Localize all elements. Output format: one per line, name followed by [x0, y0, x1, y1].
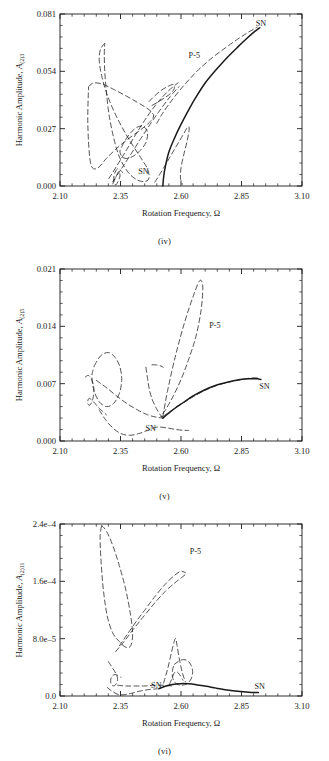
axis-label-group: 2.10 2.35 2.60 2.85 3.10 0.000 0.007 0.0…	[14, 264, 310, 473]
curve-annotation-sn: SN	[256, 19, 267, 28]
curve-annotation-sn: SN	[146, 424, 157, 433]
x-axis-title: Rotation Frequency, Ω	[142, 718, 220, 728]
x-tick-label: 2.85	[234, 191, 249, 201]
x-tick-label: 2.85	[234, 701, 249, 711]
x-tick-label: 3.10	[294, 191, 309, 201]
curve-dashed-lower-tangle	[113, 169, 123, 185]
curve-annotation-p-5: P-5	[190, 547, 201, 556]
panel-caption-v: (v)	[0, 491, 329, 501]
curve-primary-P1-backbone	[159, 684, 259, 693]
x-tick-label: 2.60	[173, 446, 188, 456]
y-tick-label: 1.6e–4	[33, 576, 57, 586]
y-axis-title: Harmonic Amplitude, A(2)5	[14, 309, 26, 401]
curve-dashed-flat-shelf-left	[118, 685, 172, 686]
chart-panel-vi: 2.10 2.35 2.60 2.85 3.10 0.0 8.0e–5 1.6e…	[0, 510, 329, 761]
chart-svg-iv: 2.10 2.35 2.60 2.85 3.10 0.000 0.027 0.0…	[0, 0, 329, 232]
curve-dashed-loop-right-hook	[155, 127, 189, 185]
curve-group	[88, 27, 260, 186]
curve-dashed-mid-blob	[172, 660, 192, 686]
axes-frame	[60, 269, 302, 441]
curve-dashed-left-lower-tail	[108, 662, 121, 686]
x-tick-label: 2.10	[52, 701, 67, 711]
y-tick-label: 0.054	[37, 66, 57, 76]
curve-annotation-sn: SN	[259, 382, 270, 391]
axis-label-group: 2.10 2.35 2.60 2.85 3.10 0.0 8.0e–5 1.6e…	[14, 519, 310, 728]
plot-area-v: 2.10 2.35 2.60 2.85 3.10 0.000 0.007 0.0…	[0, 255, 329, 485]
curve-dashed-mid-stem	[169, 672, 183, 685]
curve-annotation-sn: SN	[254, 682, 265, 691]
curve-group	[100, 525, 258, 694]
panel-caption-iv: (iv)	[0, 236, 329, 246]
x-tick-label: 2.60	[173, 701, 188, 711]
y-tick-label: 0.081	[37, 9, 56, 19]
curve-dashed-mid-column	[146, 367, 162, 418]
x-tick-label: 2.10	[52, 191, 67, 201]
curve-group	[85, 280, 260, 435]
curve-dashed-crossing-diagonal	[109, 83, 178, 179]
panel-caption-vi: (vi)	[0, 746, 329, 756]
curve-annotation-sn: SN	[138, 167, 149, 176]
x-tick-label: 3.10	[294, 701, 309, 711]
x-tick-label: 2.85	[234, 446, 249, 456]
x-tick-label: 2.35	[113, 191, 128, 201]
curve-annotation-p-5: P-5	[189, 51, 200, 60]
y-tick-label: 2.4e–4	[33, 519, 57, 529]
y-tick-label: 0.000	[37, 436, 56, 446]
curve-dashed-flat-shelf	[152, 365, 163, 368]
curve-dashed-loop-broad-left	[88, 83, 154, 169]
y-tick-label: 0.027	[37, 124, 57, 134]
x-tick-label: 2.60	[173, 191, 188, 201]
axis-ticks	[60, 524, 302, 696]
plot-area-vi: 2.10 2.35 2.60 2.85 3.10 0.0 8.0e–5 1.6e…	[0, 510, 329, 740]
annotation-group: P-5SNSN	[151, 547, 265, 691]
x-tick-label: 3.10	[294, 446, 309, 456]
chart-panel-iv: 2.10 2.35 2.60 2.85 3.10 0.000 0.027 0.0…	[0, 0, 329, 253]
x-axis-title: Rotation Frequency, Ω	[142, 463, 220, 473]
chart-svg-vi: 2.10 2.35 2.60 2.85 3.10 0.0 8.0e–5 1.6e…	[0, 510, 329, 742]
y-tick-label: 0.000	[37, 181, 56, 191]
y-tick-label: 0.0	[45, 691, 56, 701]
y-tick-label: 0.007	[37, 379, 57, 389]
curve-dashed-tall-right-loop	[161, 280, 203, 416]
axis-ticks	[60, 14, 302, 186]
curve-dashed-tall-left-loop	[100, 525, 132, 647]
chart-svg-v: 2.10 2.35 2.60 2.85 3.10 0.000 0.007 0.0…	[0, 255, 329, 487]
curve-dashed-mid-sweep	[96, 380, 163, 418]
curve-P-5-branch-main	[157, 27, 257, 123]
curve-dashed-loop-tall-left	[99, 43, 149, 181]
axis-label-group: 2.10 2.35 2.60 2.85 3.10 0.000 0.027 0.0…	[14, 9, 310, 218]
curve-dashed-left-oval	[92, 353, 122, 407]
curve-dashed-baseline-dip	[107, 687, 157, 694]
y-tick-label: 8.0e–5	[33, 634, 56, 644]
curve-primary-P1-backbone	[163, 379, 261, 418]
axes-frame	[60, 14, 302, 186]
y-tick-label: 0.014	[37, 321, 57, 331]
curve-dashed-lower-trough	[99, 410, 189, 435]
x-tick-label: 2.35	[113, 701, 128, 711]
curve-annotation-sn: SN	[151, 681, 162, 690]
x-axis-title: Rotation Frequency, Ω	[142, 208, 220, 218]
x-tick-label: 2.35	[113, 446, 128, 456]
x-tick-label: 2.10	[52, 446, 67, 456]
y-axis-title: Harmonic Amplitude, A(2)3	[14, 54, 26, 146]
curve-primary-P1-backbone	[163, 28, 260, 186]
y-tick-label: 0.021	[37, 264, 56, 274]
curve-annotation-p-5: P-5	[209, 321, 220, 330]
figure-sheet: 2.10 2.35 2.60 2.85 3.10 0.000 0.027 0.0…	[0, 0, 329, 761]
y-axis-title: Harmonic Amplitude, A(2)11	[14, 562, 26, 657]
axes-frame	[60, 524, 302, 696]
plot-area-iv: 2.10 2.35 2.60 2.85 3.10 0.000 0.027 0.0…	[0, 0, 329, 230]
curve-P-5-lower-right-branch	[116, 574, 186, 651]
annotation-group: SNP-5SN	[138, 19, 266, 177]
curve-P-5-branch-overlay	[163, 378, 259, 417]
curve-dashed-mid-spike	[164, 638, 186, 683]
chart-panel-v: 2.10 2.35 2.60 2.85 3.10 0.000 0.007 0.0…	[0, 255, 329, 508]
axis-ticks	[60, 269, 302, 441]
